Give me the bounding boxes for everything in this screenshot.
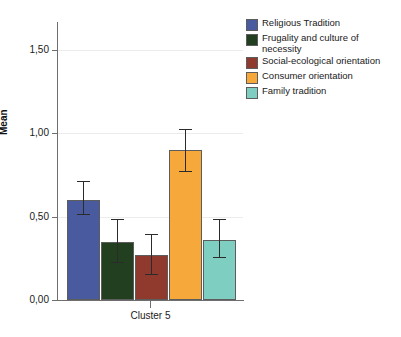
error-bar-line-religious-tradition <box>83 182 84 215</box>
x-tick-mark-cluster-5 <box>150 301 151 308</box>
legend-item-family-tradition[interactable]: Family tradition <box>246 86 398 99</box>
error-bar-line-consumer-orientation <box>185 130 186 172</box>
y-tick-label-1-00: 1,00 <box>5 128 49 138</box>
error-bar-line-frugality-and-culture-of-necessity <box>117 220 118 263</box>
legend-swatch-consumer-orientation <box>246 72 258 84</box>
y-tick-label-1-50: 1,50 <box>5 45 49 55</box>
error-bar-cap-lower-family-tradition <box>213 257 226 258</box>
legend-item-religious-tradition[interactable]: Religious Tradition <box>246 18 398 31</box>
y-axis-title: Mean <box>0 109 9 135</box>
error-bar-cap-lower-social-ecological-orientation <box>145 274 158 275</box>
legend-item-frugality-and-culture-of-necessity[interactable]: Frugality and culture of necessity <box>246 33 398 54</box>
y-tick-label-0-00: 0,00 <box>5 295 49 305</box>
error-bar-line-social-ecological-orientation <box>151 235 152 275</box>
legend-swatch-frugality-and-culture-of-necessity <box>246 34 258 46</box>
legend-label-family-tradition: Family tradition <box>262 86 326 97</box>
legend-item-social-ecological-orientation[interactable]: Social-ecological orientation <box>246 56 398 69</box>
error-bar-cap-upper-frugality-and-culture-of-necessity <box>111 219 124 220</box>
error-bar-cap-upper-family-tradition <box>213 219 226 220</box>
legend-swatch-social-ecological-orientation <box>246 57 258 69</box>
error-bar-cap-lower-frugality-and-culture-of-necessity <box>111 262 124 263</box>
bar-consumer-orientation <box>169 150 202 300</box>
error-bar-cap-upper-religious-tradition <box>77 181 90 182</box>
error-bar-cap-upper-social-ecological-orientation <box>145 234 158 235</box>
bar-chart-figure: 1,50 1,00 0,50 0,00 Mean Cluster 5 <box>0 0 401 337</box>
y-tick-label-0-50: 0,50 <box>5 212 49 222</box>
bar-religious-tradition <box>67 200 100 300</box>
legend-label-frugality-and-culture-of-necessity: Frugality and culture of necessity <box>262 33 398 54</box>
bars-layer <box>57 22 244 300</box>
error-bar-cap-lower-consumer-orientation <box>179 171 192 172</box>
legend-swatch-religious-tradition <box>246 19 258 31</box>
x-axis-category-label: Cluster 5 <box>57 310 244 321</box>
error-bar-line-family-tradition <box>219 220 220 258</box>
legend-label-consumer-orientation: Consumer orientation <box>262 71 353 82</box>
legend: Religious Tradition Frugality and cultur… <box>246 18 398 101</box>
legend-swatch-family-tradition <box>246 87 258 99</box>
error-bar-cap-lower-religious-tradition <box>77 214 90 215</box>
legend-label-social-ecological-orientation: Social-ecological orientation <box>262 56 380 67</box>
legend-label-religious-tradition: Religious Tradition <box>262 18 340 29</box>
error-bar-cap-upper-consumer-orientation <box>179 129 192 130</box>
legend-item-consumer-orientation[interactable]: Consumer orientation <box>246 71 398 84</box>
